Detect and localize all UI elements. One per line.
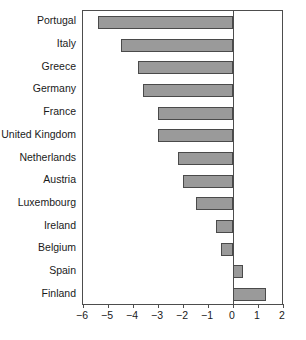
bar (221, 243, 234, 256)
bar (196, 197, 234, 210)
x-axis-tick-label: −6 (70, 309, 94, 321)
x-axis-tick (283, 304, 284, 308)
category-label: Greece (42, 61, 76, 72)
bar (233, 265, 243, 278)
plot-area (83, 11, 282, 304)
x-axis-tick-label: −2 (170, 309, 194, 321)
x-axis-tick-label: 0 (220, 309, 244, 321)
x-axis-tick (133, 304, 134, 308)
category-label: Finland (42, 288, 76, 299)
bar (143, 84, 233, 97)
x-axis-tick (233, 304, 234, 308)
category-label: Spain (49, 265, 76, 276)
x-axis-tick (108, 304, 109, 308)
x-axis-tick-label: −1 (195, 309, 219, 321)
x-axis-tick (158, 304, 159, 308)
x-axis-tick-label: −5 (95, 309, 119, 321)
bar (183, 175, 233, 188)
x-axis-tick-label: 2 (270, 309, 294, 321)
x-axis-tick-label: −3 (145, 309, 169, 321)
category-label: France (43, 106, 76, 117)
category-label: Luxembourg (18, 197, 76, 208)
category-label: Belgium (38, 242, 76, 253)
category-label: United Kingdom (1, 129, 76, 140)
x-axis-tick (208, 304, 209, 308)
category-label: Italy (57, 38, 76, 49)
category-label: Ireland (44, 220, 76, 231)
bar (138, 61, 233, 74)
bar (233, 288, 266, 301)
bar (178, 152, 233, 165)
bar (158, 129, 233, 142)
bar (158, 107, 233, 120)
bar (216, 220, 234, 233)
plot-frame (82, 10, 283, 305)
category-label: Netherlands (19, 152, 76, 163)
x-axis-tick-label: −4 (120, 309, 144, 321)
bar (98, 16, 233, 29)
x-axis-tick-label: 1 (245, 309, 269, 321)
zero-reference-line (233, 11, 234, 304)
x-axis-tick (183, 304, 184, 308)
category-label: Austria (43, 174, 76, 185)
bar (121, 39, 234, 52)
bar-chart: PortugalItalyGreeceGermanyFranceUnited K… (0, 0, 306, 340)
category-axis-labels: PortugalItalyGreeceGermanyFranceUnited K… (0, 10, 76, 305)
x-axis-tick (83, 304, 84, 308)
category-label: Germany (33, 83, 76, 94)
category-label: Portugal (37, 15, 76, 26)
x-axis-tick (258, 304, 259, 308)
